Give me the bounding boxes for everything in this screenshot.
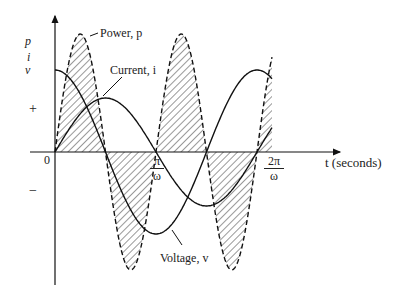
power-label: Power, p [100,26,142,41]
tick-pi-over-omega: πω [150,155,164,182]
voltage-label: Voltage, v [160,251,208,266]
voltage-leader [172,230,182,245]
current-label: Current, i [110,63,156,78]
origin-label: 0 [44,153,50,168]
waveform-diagram [0,0,405,293]
y-label-v: v [25,63,30,78]
plus-sign: + [29,101,37,117]
tick-2pi-over-omega: 2πω [264,155,284,182]
x-axis-label: t (seconds) [325,155,382,171]
minus-sign: − [29,183,37,199]
y-label-p: p [25,34,31,49]
current-leader [103,77,122,96]
power-leader [90,33,98,36]
